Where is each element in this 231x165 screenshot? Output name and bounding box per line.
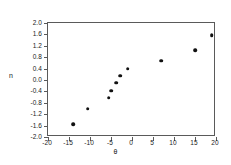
y-axis-tick-mark xyxy=(44,69,48,70)
y-axis-tick-labels: 2.01.61.20.80.40.0-0.4-0.8-1.2-1.6-2.0 xyxy=(23,22,42,136)
data-point xyxy=(160,59,164,63)
x-axis-tick-label: 20 xyxy=(211,139,218,146)
x-axis-tick-label: -15 xyxy=(63,139,73,146)
y-axis-tick-label: 0.0 xyxy=(33,76,42,83)
x-axis-tick-label: 10 xyxy=(169,139,176,146)
y-axis-tick-label: 0.4 xyxy=(33,64,42,71)
x-axis-label: θ xyxy=(0,148,231,156)
y-axis-tick-mark xyxy=(44,114,48,115)
data-point xyxy=(86,107,90,111)
y-axis-tick-label: -2.0 xyxy=(30,133,42,140)
data-point xyxy=(118,74,122,78)
y-axis-label: n xyxy=(9,72,13,80)
data-point xyxy=(109,89,113,93)
y-axis-tick-label: -1.2 xyxy=(30,110,42,117)
y-axis-tick-label: 0.8 xyxy=(33,53,42,60)
data-point xyxy=(107,96,111,100)
y-axis-tick-label: 2.0 xyxy=(33,19,42,26)
y-axis-tick-mark xyxy=(44,46,48,47)
data-point xyxy=(193,48,197,52)
y-axis-tick-mark xyxy=(44,126,48,127)
x-axis-tick-label: 0 xyxy=(129,139,133,146)
scatter-plot-figure: n 2.01.61.20.80.40.0-0.4-0.8-1.2-1.6-2.0… xyxy=(0,0,231,165)
data-point xyxy=(210,33,214,37)
y-axis-tick-mark xyxy=(44,23,48,24)
y-axis-tick-mark xyxy=(44,103,48,104)
y-axis-tick-label: 1.6 xyxy=(33,30,42,37)
x-axis-tick-label: -10 xyxy=(84,139,94,146)
y-axis-tick-mark xyxy=(44,91,48,92)
data-point xyxy=(114,81,118,85)
x-axis-tick-label: -5 xyxy=(107,139,113,146)
data-points-layer xyxy=(48,23,214,135)
x-axis-tick-label: -20 xyxy=(42,139,52,146)
x-axis-tick-label: 15 xyxy=(190,139,197,146)
y-axis-tick-label: -0.8 xyxy=(30,98,42,105)
plot-area xyxy=(47,22,215,136)
data-point xyxy=(71,122,75,126)
data-point xyxy=(126,67,130,71)
y-axis-tick-label: 1.2 xyxy=(33,41,42,48)
y-axis-tick-mark xyxy=(44,34,48,35)
y-axis-tick-mark xyxy=(44,57,48,58)
y-axis-tick-label: -1.6 xyxy=(30,121,42,128)
y-axis-tick-label: -0.4 xyxy=(30,87,42,94)
x-axis-tick-label: 5 xyxy=(150,139,154,146)
y-axis-tick-mark xyxy=(44,80,48,81)
